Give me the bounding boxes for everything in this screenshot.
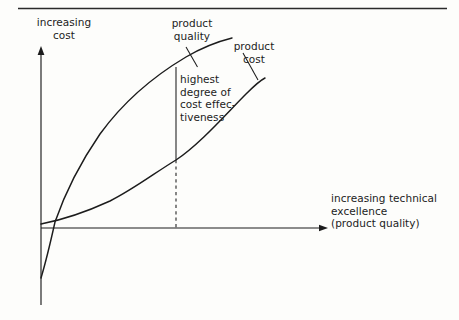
annotation-highest-degree-of-cost-effectiveness: highest degree of cost effec- tiveness <box>180 73 264 123</box>
y-axis-arrowhead <box>38 46 45 55</box>
x-axis-label: increasing technical excellence (product… <box>331 192 457 230</box>
series-label-product-quality: product quality <box>146 17 238 42</box>
x-axis-arrowhead <box>319 225 328 232</box>
y-axis <box>38 46 45 305</box>
y-axis-label: increasing cost <box>16 16 112 41</box>
leader-line-product-quality <box>186 47 198 67</box>
diagram-root: increasing cost product quality product … <box>0 0 459 320</box>
series-label-product-cost: product cost <box>214 40 294 65</box>
x-axis <box>41 225 328 232</box>
